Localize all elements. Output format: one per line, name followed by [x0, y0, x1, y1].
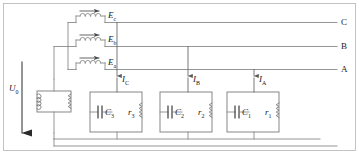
- current-label-ib: IB: [193, 75, 200, 84]
- bottom-rail-outer: [54, 139, 337, 146]
- supply-voltage-label: U0: [9, 84, 19, 93]
- source-label-ec: Ec: [108, 11, 116, 20]
- left-bus: [54, 23, 76, 80]
- capacitor-label-c3: C3: [105, 108, 114, 117]
- current-label-ia: IA: [259, 75, 266, 84]
- bus-label-a: A: [341, 65, 348, 74]
- circuit-diagram: U0 Ec Eb Ea C B A IC IB IA C3 r3 C2 r2 C…: [0, 0, 359, 154]
- capacitor-label-c2: C2: [175, 108, 184, 117]
- resistor-label-r3: r3: [128, 108, 135, 117]
- circuit-schematic-svg: [0, 0, 359, 154]
- capacitor-label-c1: C1: [242, 108, 251, 117]
- source-label-ea: Ea: [108, 58, 116, 67]
- current-label-ic: IC: [122, 75, 129, 84]
- figure-border: [4, 4, 356, 151]
- bus-label-b: B: [341, 42, 347, 51]
- source-label-eb: Eb: [108, 35, 117, 44]
- resistor-label-r2: r2: [198, 108, 205, 117]
- transformer-symbol: [37, 79, 71, 133]
- resistor-label-r1: r1: [265, 108, 272, 117]
- bottom-rail-inner: [54, 132, 320, 139]
- bus-label-c: C: [341, 18, 347, 27]
